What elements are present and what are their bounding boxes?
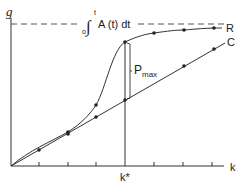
integral-upper-limit: t — [94, 9, 96, 16]
curve-r-points — [66, 26, 216, 134]
line-c-label: C — [227, 36, 235, 48]
curve-r — [11, 28, 222, 166]
line-c — [11, 43, 225, 166]
pmax-label: P — [134, 63, 142, 77]
y-axis-label: g — [6, 4, 13, 19]
chart: o ∫ t A (t) dt P max R C g k k* — [0, 0, 240, 186]
curve-r-label: R — [226, 22, 234, 34]
integral-sign: ∫ — [85, 17, 92, 37]
k-star-label: k* — [120, 171, 131, 183]
pmax-bracket — [127, 43, 130, 99]
integral-expression: A (t) dt — [98, 18, 130, 30]
x-axis-label: k — [230, 161, 236, 173]
pmax-label-sub: max — [142, 70, 157, 79]
